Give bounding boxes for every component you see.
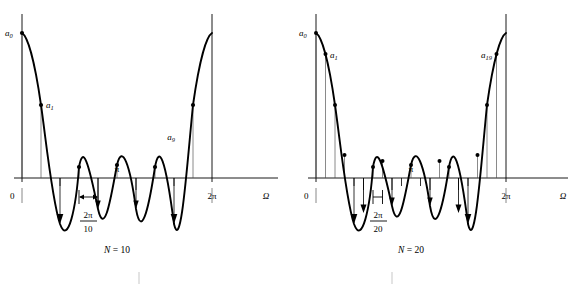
- label-origin-n20: 0: [304, 191, 309, 201]
- sample-dot-a2: [333, 103, 337, 107]
- spacing-fraction-n10: 2π 10: [80, 210, 97, 234]
- label-pi-n20: π: [409, 164, 414, 174]
- arrow-head-left2: [361, 205, 367, 214]
- label-a1-n10: a1: [46, 100, 54, 111]
- spacing-denominator-n10: 10: [84, 224, 94, 234]
- spacing-arrow-head-left: [79, 195, 84, 200]
- sample-dot-a19: [495, 52, 499, 56]
- sample-dot-a9: [191, 103, 195, 107]
- axes-n20: [308, 14, 568, 203]
- sample-spacing-indicator-n20: [373, 190, 383, 204]
- arrow-head-right2: [456, 205, 462, 214]
- label-omega-n20: Ω: [560, 191, 567, 201]
- label-a9-n10: a9: [167, 132, 176, 143]
- caption-n10: N = 10: [103, 245, 130, 255]
- label-pi-n10: π: [115, 164, 120, 174]
- caption-n20: N = 20: [397, 245, 424, 255]
- sample-dot-a17: [476, 153, 480, 157]
- sample-dot-a7: [381, 159, 385, 163]
- sample-dot-a0: [20, 31, 24, 35]
- spectrum-curve-n10: [22, 33, 212, 230]
- sample-dot-a13: [438, 159, 442, 163]
- spacing-fraction-n20: 2π 20: [370, 210, 387, 234]
- sample-stems-n10: [22, 33, 193, 190]
- chart-panel-n20: a0 a1 a19 0 π 2π Ω 2π 20 N = 20: [284, 0, 568, 288]
- sample-dot-a1: [324, 52, 328, 56]
- sample-dot-a14: [447, 165, 451, 169]
- chart-panel-n10: a0 a1 a9 0 π 2π Ω 2π 10 N = 10: [0, 0, 284, 288]
- label-origin-n10: 0: [10, 191, 15, 201]
- sample-dot-a7: [153, 165, 157, 169]
- figure-dft-sampling: a0 a1 a9 0 π 2π Ω 2π 10 N = 10: [0, 0, 568, 288]
- sample-dot-a18: [485, 103, 489, 107]
- sample-dot-a3: [77, 165, 81, 169]
- sample-dot-a6: [371, 165, 375, 169]
- label-omega-n10: Ω: [263, 191, 270, 201]
- label-twopi-n20: 2π: [501, 191, 511, 201]
- chart-svg-n20: a0 a1 a19 0 π 2π Ω 2π 20 N = 20: [284, 0, 568, 288]
- sample-dots-n20: [314, 31, 499, 169]
- sample-dot-a0: [314, 31, 318, 35]
- spacing-numerator-n20: 2π: [373, 210, 383, 220]
- label-a1-n20: a1: [330, 50, 338, 61]
- label-twopi-n10: 2π: [207, 191, 217, 201]
- label-a19-n20: a19: [481, 50, 493, 61]
- spacing-denominator-n20: 20: [374, 224, 384, 234]
- chart-svg-n10: a0 a1 a9 0 π 2π Ω 2π 10 N = 10: [0, 0, 284, 288]
- spectrum-curve-n20: [316, 33, 506, 230]
- spacing-numerator-n10: 2π: [83, 210, 93, 220]
- sample-dot-a3: [343, 153, 347, 157]
- label-a0-n20: a0: [299, 28, 308, 39]
- sample-dot-a1: [39, 103, 43, 107]
- label-a0-n10: a0: [5, 28, 14, 39]
